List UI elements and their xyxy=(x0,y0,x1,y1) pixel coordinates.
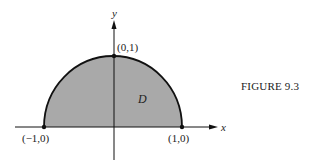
point-top xyxy=(112,54,116,58)
point-right-label: (1,0) xyxy=(168,132,189,145)
region-label: D xyxy=(137,92,147,106)
region-d xyxy=(44,56,182,127)
point-top-label: (0,1) xyxy=(117,41,138,54)
x-axis-label: x xyxy=(220,121,226,133)
figure-caption: FIGURE 9.3 xyxy=(241,80,299,92)
point-left xyxy=(42,125,46,129)
point-right xyxy=(180,125,184,129)
y-axis-label: y xyxy=(111,7,117,19)
x-axis-arrow-icon xyxy=(209,125,218,130)
y-axis-arrow-icon xyxy=(112,20,117,29)
point-left-label: (−1,0) xyxy=(22,132,50,145)
